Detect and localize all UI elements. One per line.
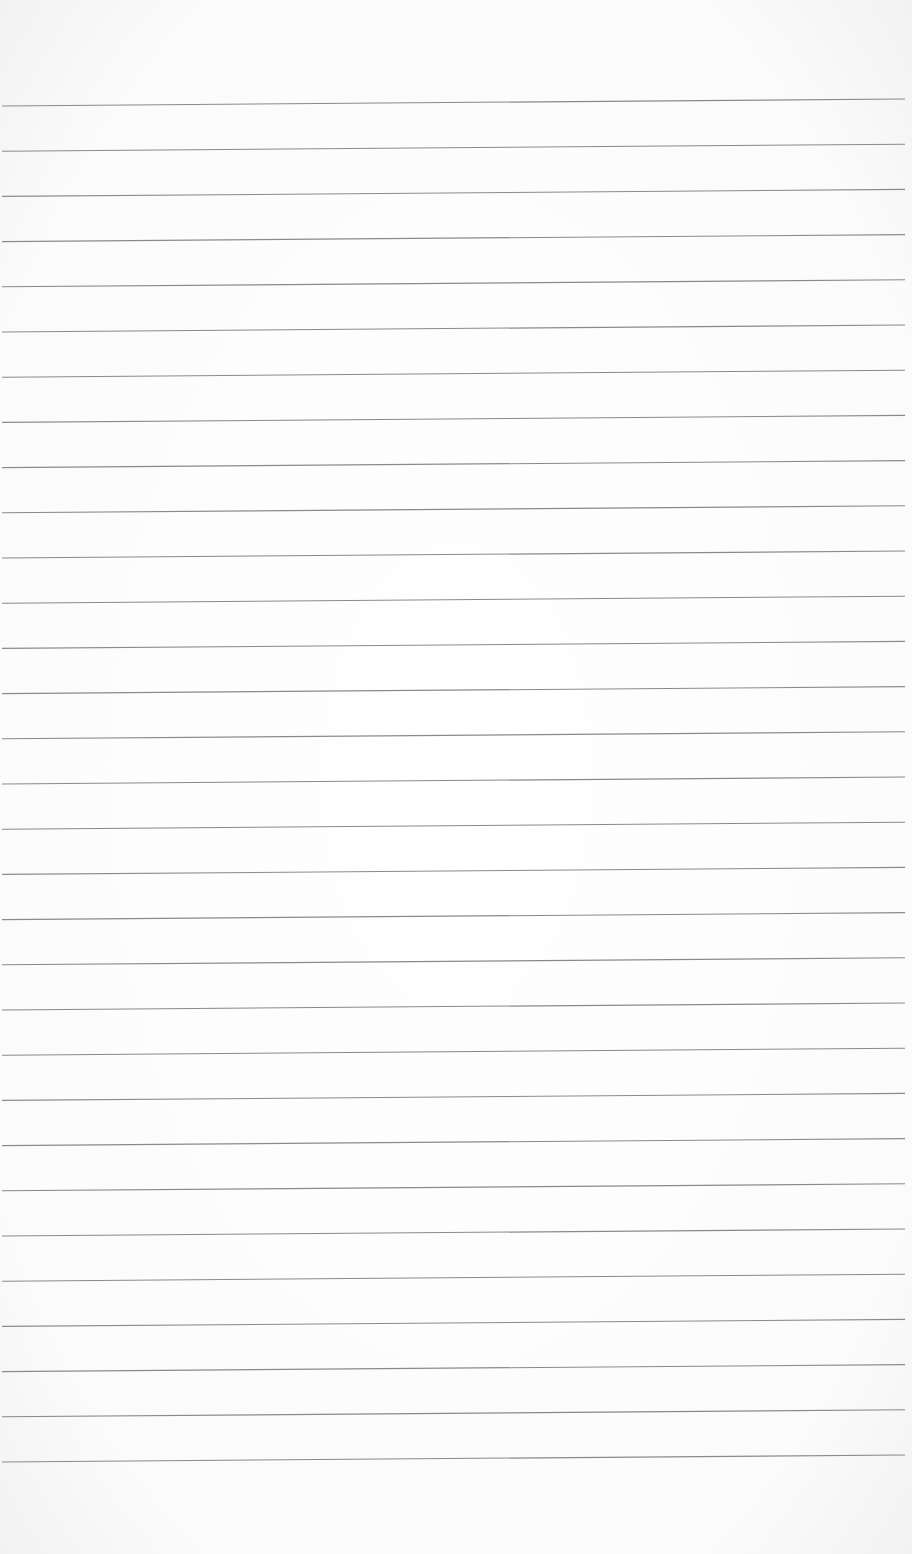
ruled-line <box>2 370 905 377</box>
ruled-line <box>2 596 905 603</box>
ruled-line <box>2 235 905 242</box>
ruled-line <box>2 1139 905 1146</box>
ruled-line <box>2 325 905 332</box>
ruled-line <box>2 1319 905 1326</box>
ruled-line <box>2 958 905 965</box>
ruled-line <box>2 777 905 784</box>
ruled-line <box>2 551 905 558</box>
ruled-line <box>2 1003 905 1010</box>
ruled-line <box>2 1365 905 1372</box>
ruled-line <box>2 506 905 513</box>
ruled-line <box>2 99 905 106</box>
ruled-line <box>2 822 905 829</box>
ruled-line <box>2 1184 905 1191</box>
ruled-lines <box>0 0 912 1554</box>
ruled-line <box>2 913 905 920</box>
ruled-line <box>2 1455 905 1462</box>
ruled-line <box>2 461 905 468</box>
ruled-line <box>2 641 905 648</box>
ruled-line <box>2 1048 905 1055</box>
ruled-line <box>2 144 905 151</box>
ruled-line <box>2 1229 905 1236</box>
ruled-line <box>2 732 905 739</box>
ruled-line <box>2 1410 905 1417</box>
ruled-line <box>2 280 905 287</box>
lined-paper-sheet <box>0 0 912 1554</box>
ruled-line <box>2 687 905 694</box>
ruled-line <box>2 1093 905 1100</box>
ruled-line <box>2 867 905 874</box>
ruled-line <box>2 415 905 422</box>
ruled-line <box>2 189 905 196</box>
ruled-line <box>2 1274 905 1281</box>
